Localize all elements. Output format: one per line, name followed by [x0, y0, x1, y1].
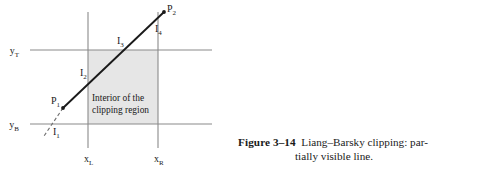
x-right-axis-label: xR: [154, 153, 164, 167]
point-p2-dot: [162, 10, 166, 14]
intersection-i1-label: I1: [53, 126, 60, 140]
point-p1-label: P1: [51, 95, 61, 109]
liang-barsky-diagram: yT yB xL xR P1 P2 I1 I2 I3 I4 Interior o…: [0, 0, 230, 185]
x-left-axis-label: xL: [84, 153, 93, 167]
intersection-i3-label: I3: [117, 35, 124, 49]
figure-caption-label: Figure 3–14: [238, 136, 296, 148]
figure-caption-text-line2: tially visible line.: [295, 149, 483, 163]
intersection-i4-label: I4: [155, 23, 162, 37]
y-top-axis-label: yT: [10, 45, 20, 59]
figure-caption: Figure 3–14 Liang–Barsky clipping: par- …: [238, 135, 483, 163]
point-p2-label: P2: [167, 3, 177, 17]
figure-page: yT yB xL xR P1 P2 I1 I2 I3 I4 Interior o…: [0, 0, 487, 185]
figure-caption-text: Liang–Barsky clipping: par-: [301, 136, 428, 148]
y-bottom-axis-label: yB: [9, 119, 19, 133]
interior-region-label-line2: clipping region: [92, 105, 149, 115]
intersection-i2-label: I2: [80, 67, 87, 81]
interior-region-label-line1: Interior of the: [92, 93, 144, 103]
point-p1-dot: [61, 106, 65, 110]
